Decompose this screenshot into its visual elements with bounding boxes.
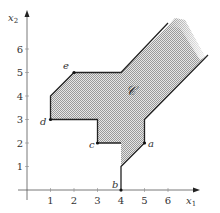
y-axis-arrow-icon	[25, 10, 30, 17]
x-tick-label: 6	[165, 195, 171, 206]
x-tick-label: 4	[118, 195, 124, 206]
x-tick-label: 2	[71, 195, 77, 206]
y-tick-label: 6	[17, 44, 23, 55]
x-tick-label: 1	[47, 195, 53, 206]
svg-text:b: b	[112, 179, 118, 190]
feasible-region-diagram: 1 2 3 4 5 6 1 2 3 4 5 6 x1 x2 𝒞 a b c d …	[0, 0, 220, 213]
x-tick-label: 3	[94, 195, 100, 206]
y-axis-label: x2	[8, 12, 18, 25]
y-tick-label: 2	[17, 138, 23, 149]
y-tick-label: 5	[17, 67, 23, 78]
point-e: e	[63, 60, 76, 74]
x-axis-arrow-icon	[193, 188, 200, 193]
y-tick-label: 4	[17, 91, 23, 102]
x-tick-label: 5	[141, 195, 147, 206]
svg-text:e: e	[63, 60, 69, 71]
y-tick-label: 1	[17, 161, 23, 172]
x-axis-label: x1	[186, 195, 196, 208]
svg-text:d: d	[40, 116, 46, 127]
svg-text:a: a	[148, 138, 154, 149]
svg-text:c: c	[89, 139, 95, 150]
region-c	[51, 18, 206, 190]
y-tick-label: 3	[17, 114, 23, 125]
